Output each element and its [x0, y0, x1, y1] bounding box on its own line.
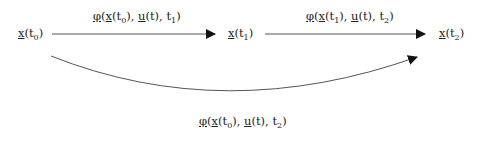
node-sub: 2	[455, 33, 460, 42]
edge-label-t0-t1: φ(x(t0), u(t), t1)	[93, 11, 181, 23]
node-var: x	[439, 26, 446, 40]
sub: 1	[334, 16, 339, 25]
node-sub: 1	[244, 33, 249, 42]
phi: φ	[93, 9, 101, 23]
u-var: u	[138, 9, 145, 23]
node-x-t2: x(t2)	[439, 28, 464, 40]
node-var: x	[228, 26, 235, 40]
u-var: u	[244, 114, 251, 128]
phi: φ	[306, 9, 314, 23]
sub: 2	[384, 16, 389, 25]
node-x-t1: x(t1)	[228, 28, 253, 40]
sub: 0	[227, 121, 232, 130]
edge-label-t0-t2: φ(x(t0), u(t), t2)	[199, 116, 287, 128]
phi: φ	[199, 114, 207, 128]
sub: 1	[171, 16, 176, 25]
edge-t0-t2-curved-arrow	[51, 56, 417, 91]
node-sub: 0	[34, 33, 39, 42]
u-var: u	[351, 9, 358, 23]
node-x-t0: x(t0)	[18, 28, 43, 40]
node-var: x	[18, 26, 25, 40]
sub: 0	[121, 16, 126, 25]
edge-label-t1-t2: φ(x(t1), u(t), t2)	[306, 11, 394, 23]
sub: 2	[277, 121, 282, 130]
